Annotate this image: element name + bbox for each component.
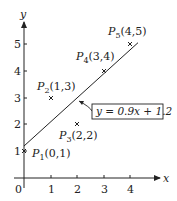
svg-text:3: 3 <box>14 92 21 105</box>
label-p5: P5(4,5) <box>107 25 147 40</box>
label-p2: P2(1,3) <box>36 80 76 95</box>
svg-text:4: 4 <box>127 183 134 196</box>
svg-text:4: 4 <box>14 65 21 78</box>
svg-text:1: 1 <box>14 145 21 158</box>
regression-chart: x y 0 1 2 3 4 1 2 3 4 5 P1(0,1) P2(1,3) … <box>0 0 177 201</box>
point-p2 <box>49 96 53 100</box>
label-p1: P1(0,1) <box>31 147 71 162</box>
equation-label: y = 0.9x + 1.2 <box>95 105 173 117</box>
point-p3 <box>75 122 79 126</box>
label-p4: P4(3,4) <box>75 50 115 65</box>
svg-text:0: 0 <box>15 183 22 196</box>
svg-text:3: 3 <box>101 183 108 196</box>
point-p4 <box>102 69 106 73</box>
svg-text:1: 1 <box>48 183 55 196</box>
label-p3: P3(2,2) <box>58 129 98 144</box>
svg-text:2: 2 <box>74 183 81 196</box>
x-axis-label: x <box>163 172 170 185</box>
y-ticks: 1 2 3 4 5 <box>14 38 27 158</box>
svg-text:5: 5 <box>14 38 21 51</box>
y-axis-label: y <box>19 8 27 21</box>
svg-text:2: 2 <box>14 118 21 131</box>
point-p5 <box>128 42 132 46</box>
